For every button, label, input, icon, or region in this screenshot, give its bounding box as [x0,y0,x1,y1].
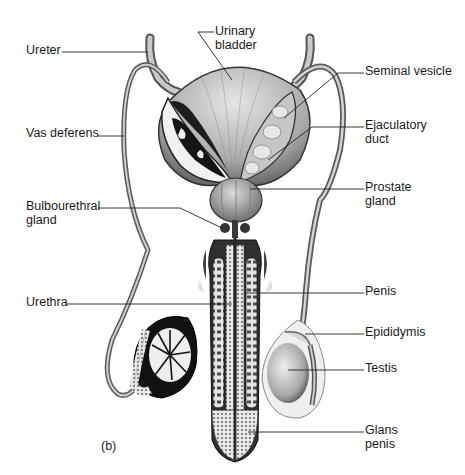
anatomy-diagram: Ureter Urinary bladder Seminal vesicle V… [0,0,465,475]
label-urethra: Urethra [26,296,68,310]
leader-bulbourethral-gland [98,208,222,228]
penis-section [198,238,272,462]
panel-label: (b) [101,440,116,454]
right-testis-external [262,320,325,418]
label-penis: Penis [365,285,396,299]
label-vas-deferens: Vas deferens [26,127,99,141]
label-prostate-gland: Prostate gland [365,181,412,208]
label-urinary-bladder: Urinary bladder [215,25,257,52]
label-glans-penis: Glans penis [365,424,398,451]
label-testis: Testis [365,362,397,376]
label-bulbourethral-gland: Bulbourethral gland [26,200,100,227]
label-ureter: Ureter [26,44,61,58]
label-epididymis: Epididymis [365,326,425,340]
left-testis-section [134,316,197,398]
bulbourethral-gland-right [240,223,250,233]
label-seminal-vesicle: Seminal vesicle [365,65,452,79]
label-ejaculatory-duct: Ejaculatory duct [365,119,427,146]
